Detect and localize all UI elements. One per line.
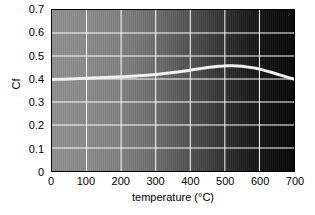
x-axis-title: temperature (°C) (51, 191, 295, 203)
y-tick-label: 0.7 (0, 4, 44, 15)
x-tick-label: 600 (243, 176, 277, 187)
x-tick-label: 0 (34, 176, 68, 187)
data-curve (52, 10, 294, 171)
x-tick-label: 500 (208, 176, 242, 187)
y-axis-title: Cf (10, 62, 22, 106)
x-tick-label: 300 (139, 176, 173, 187)
y-tick-label: 0.5 (0, 51, 44, 62)
y-tick-label: 0.6 (0, 27, 44, 38)
x-tick-label: 400 (173, 176, 207, 187)
y-tick-label: 0.3 (0, 97, 44, 108)
plot-area (51, 9, 295, 172)
x-tick-label: 200 (104, 176, 138, 187)
y-tick-label: 0.2 (0, 120, 44, 131)
y-tick-label: 0.4 (0, 74, 44, 85)
y-tick-label: 0.1 (0, 144, 44, 155)
chart-figure: 00.10.20.30.40.50.60.7 01002003004005006… (0, 0, 315, 215)
x-tick-label: 700 (278, 176, 312, 187)
x-tick-label: 100 (69, 176, 103, 187)
